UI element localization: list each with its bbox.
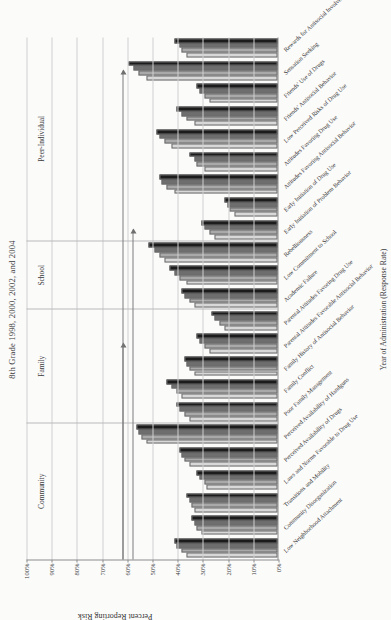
bar-group	[26, 150, 277, 173]
bar	[176, 543, 277, 548]
domain-label: Peer-Individual	[36, 115, 45, 161]
bar	[191, 515, 277, 520]
y-tick-mark	[177, 559, 178, 562]
bar-group	[26, 172, 277, 195]
y-tick-mark	[76, 559, 77, 562]
bar	[196, 470, 277, 475]
bar	[227, 202, 277, 207]
y-tick-mark	[253, 559, 254, 562]
x-axis-caption: Year of Administration (Response Rate)	[378, 0, 387, 618]
bar	[166, 184, 277, 189]
y-tick-mark	[228, 559, 229, 562]
y-axis-label: Percent Reporting Risk	[77, 611, 152, 620]
bar-group	[26, 218, 277, 241]
y-tick-label: 90%	[48, 563, 55, 575]
bar	[204, 479, 277, 484]
y-tick-label: 20%	[224, 563, 231, 575]
bar	[138, 429, 277, 434]
bar	[164, 257, 277, 262]
gridline	[26, 37, 27, 559]
y-tick-label: 40%	[174, 563, 181, 575]
category-label: Poor Family Management	[282, 369, 333, 417]
bar	[181, 393, 277, 398]
bar	[209, 98, 277, 103]
bar	[194, 120, 277, 125]
gridline	[76, 37, 77, 559]
bar-group	[26, 423, 277, 446]
bar-group	[26, 445, 277, 468]
bar-series-container	[26, 37, 277, 559]
bar-group	[26, 536, 277, 559]
bar	[194, 520, 277, 525]
bar	[169, 265, 277, 270]
bar	[204, 225, 277, 230]
bar	[166, 379, 277, 384]
bar	[186, 116, 277, 121]
bar	[204, 166, 277, 171]
category-label: Friends' Use of Drugs	[282, 57, 325, 98]
y-tick-label: 0%	[275, 563, 282, 572]
bar	[186, 361, 277, 366]
bar	[148, 243, 277, 248]
gridline	[51, 37, 52, 559]
bar	[211, 311, 277, 316]
y-tick-label: 60%	[123, 563, 130, 575]
bar	[196, 161, 277, 166]
annotation-arrow	[132, 229, 133, 559]
bar	[199, 475, 277, 480]
y-tick-mark	[202, 559, 203, 562]
bar	[156, 129, 277, 134]
bar	[224, 325, 277, 330]
domain-separator	[26, 240, 277, 241]
gridline	[152, 37, 153, 559]
bar-group	[26, 309, 277, 332]
bar	[199, 88, 277, 93]
bar-group	[26, 81, 277, 104]
y-tick-label: 30%	[199, 563, 206, 575]
bar	[214, 234, 277, 239]
domain-separator	[26, 422, 277, 423]
gridline	[202, 37, 203, 559]
bar	[201, 530, 277, 535]
bar	[196, 333, 277, 338]
bar	[159, 134, 277, 139]
y-tick-label: 80%	[73, 563, 80, 575]
bar	[194, 507, 277, 512]
bar	[181, 288, 277, 293]
bar-group	[26, 468, 277, 491]
bar	[133, 65, 277, 70]
bar-group	[26, 59, 277, 82]
domain-separator	[26, 308, 277, 309]
bar	[181, 548, 277, 553]
y-tick-mark	[102, 559, 103, 562]
y-tick-label: 70%	[98, 563, 105, 575]
bar	[186, 493, 277, 498]
bar	[174, 538, 277, 543]
domain-label: Family	[36, 355, 45, 376]
bar	[186, 552, 277, 557]
bar	[184, 293, 277, 298]
domain-label: School	[36, 265, 45, 286]
y-tick-mark	[152, 559, 153, 562]
bar	[171, 143, 277, 148]
domain-label: Community	[36, 473, 45, 508]
bar	[214, 315, 277, 320]
y-tick-mark	[127, 559, 128, 562]
annotation-arrow	[122, 70, 123, 559]
bar-group	[26, 491, 277, 514]
plot-area: 100%90%80%70%60%50%40%30%20%10%0% Commun…	[26, 37, 278, 560]
y-tick-label: 100%	[23, 563, 30, 578]
bar	[191, 502, 277, 507]
bar	[186, 280, 277, 285]
chart-title: 8th Grade 1998, 2000, 2002, and 2004	[6, 0, 16, 618]
bar	[174, 189, 277, 194]
bar	[159, 174, 277, 179]
bar-group	[26, 354, 277, 377]
bar	[174, 38, 277, 43]
bar	[176, 388, 277, 393]
bar-group	[26, 127, 277, 150]
bar	[209, 348, 277, 353]
